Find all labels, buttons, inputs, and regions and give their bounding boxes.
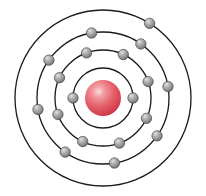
electron-shell1-1 [68, 93, 78, 103]
nucleus [85, 80, 121, 116]
electron-shell3-2 [44, 55, 54, 65]
electron-shell2-3 [81, 48, 91, 58]
electron-shell4-1 [144, 18, 154, 28]
electron-shell3-5 [163, 81, 173, 91]
electron-shell2-5 [143, 76, 153, 86]
atom-canvas [0, 0, 206, 196]
electron-shell3-6 [152, 131, 162, 141]
electron-shell1-2 [128, 93, 138, 103]
electron-shell3-7 [109, 158, 119, 168]
electron-shell2-4 [118, 49, 128, 59]
nucleus-group [85, 80, 121, 116]
electron-shell2-6 [141, 113, 151, 123]
electron-shell2-7 [114, 138, 124, 148]
electron-shell2-1 [53, 109, 63, 119]
electron-shell3-8 [60, 147, 70, 157]
bohr-atomic-model-diagram [0, 0, 206, 196]
electron-shell3-3 [86, 28, 96, 38]
electron-shell3-1 [33, 104, 43, 114]
electron-shell3-4 [136, 39, 146, 49]
electron-shell2-2 [54, 73, 64, 83]
electron-shell2-8 [78, 136, 88, 146]
